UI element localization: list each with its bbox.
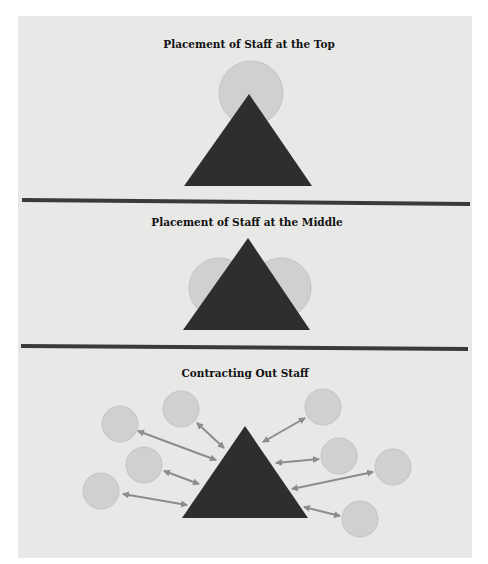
- section-title-contracting: Contracting Out Staff: [181, 367, 310, 379]
- section-divider-1: [22, 200, 470, 204]
- staff-placement-diagram: Placement of Staff at the Top Placement …: [0, 0, 488, 564]
- double-arrow-icon: [197, 423, 224, 448]
- double-arrow-icon: [292, 472, 373, 489]
- double-arrow-icon: [164, 471, 199, 484]
- double-arrow-icon: [263, 418, 305, 442]
- external-staff-circle: [83, 473, 119, 509]
- external-staff-circle: [342, 501, 378, 537]
- external-staff-circle: [375, 449, 411, 485]
- external-staff-circle: [126, 447, 162, 483]
- section-title-middle: Placement of Staff at the Middle: [151, 216, 343, 228]
- section-divider-2: [21, 346, 468, 349]
- external-staff-circle: [321, 438, 357, 474]
- section-title-top: Placement of Staff at the Top: [163, 38, 334, 50]
- external-staff-circle: [102, 406, 138, 442]
- double-arrow-icon: [276, 459, 319, 463]
- section-staff-at-middle: Placement of Staff at the Middle: [151, 216, 343, 330]
- external-staff-circle: [163, 391, 199, 427]
- double-arrow-icon: [123, 494, 187, 505]
- external-staff-circle: [305, 389, 341, 425]
- organization-pyramid: [184, 94, 312, 186]
- double-arrow-icon: [304, 507, 340, 516]
- section-contracting-out-staff: Contracting Out Staff: [83, 367, 411, 537]
- organization-pyramid: [182, 426, 308, 518]
- section-staff-at-top: Placement of Staff at the Top: [163, 38, 334, 186]
